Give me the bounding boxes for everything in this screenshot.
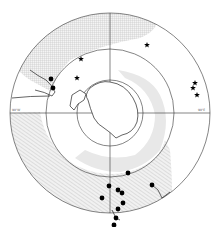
dot-marker [49, 77, 54, 82]
label-right-meridian: 90°E [198, 108, 205, 112]
dot-marker [100, 196, 105, 201]
dot-marker [116, 207, 121, 212]
label-left-meridian: 90°W [12, 108, 20, 112]
polar-map: 90°W 90°E [0, 0, 216, 227]
dot-marker [51, 86, 56, 91]
dot-marker [107, 184, 112, 189]
dot-marker [116, 188, 121, 193]
dot-marker [126, 171, 131, 176]
dot-marker [114, 216, 119, 221]
dot-marker [112, 223, 117, 227]
dot-marker [120, 191, 125, 196]
dot-marker [121, 201, 126, 206]
dot-marker [150, 183, 155, 188]
